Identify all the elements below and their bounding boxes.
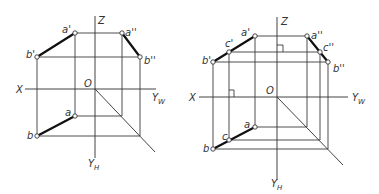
label-a-side: a'': [311, 30, 323, 41]
yh-axis-label: YH: [88, 158, 100, 172]
point-a-front: [253, 34, 257, 38]
point-b-top: [35, 134, 39, 138]
label-b-side: b'': [144, 55, 156, 66]
point-b-side: [326, 60, 330, 64]
label-b-front: b': [26, 49, 35, 60]
orthographic-projection-figure: Z X O YW YH a' b' a'' b'' a b: [0, 0, 379, 194]
label-b-top: b: [27, 130, 33, 141]
point-b-top: [211, 147, 215, 151]
segment-ab-front: [213, 36, 255, 62]
point-b-side: [138, 55, 142, 59]
x-axis-label: X: [15, 84, 24, 95]
point-c-side: [318, 50, 322, 54]
label-a-side: a'': [125, 27, 137, 38]
label-b-top: b: [203, 143, 209, 154]
point-c-front: [227, 50, 231, 54]
label-b-front: b': [202, 55, 211, 66]
z-axis-label: Z: [97, 15, 106, 26]
point-b-front: [35, 55, 39, 59]
label-b-side: b'': [333, 63, 345, 74]
segment-ab-top: [37, 116, 75, 136]
yw-axis-label: YW: [152, 92, 166, 106]
point-a-front: [73, 31, 77, 35]
label-c-top: c: [222, 131, 228, 142]
label-a-front: a': [241, 27, 250, 38]
right-diagram: Z X O YW YH a' c' b' a'' c'' b'' a c b: [188, 16, 366, 192]
point-a-side: [120, 31, 124, 35]
x-axis-label: X: [188, 92, 197, 103]
point-a-top: [253, 125, 257, 129]
point-a-top: [73, 114, 77, 118]
origin-label: O: [84, 78, 92, 89]
point-a-side: [305, 34, 309, 38]
left-diagram: Z X O YW YH a' b' a'' b'' a b: [15, 15, 166, 172]
right-angle-marker: [277, 45, 283, 52]
origin-label: O: [266, 85, 274, 96]
label-c-front: c': [225, 38, 233, 49]
right-angle-marker: [229, 90, 234, 97]
z-axis-label: Z: [280, 16, 289, 27]
diagonal-45-line: [277, 97, 343, 165]
yw-axis-label: YW: [352, 92, 366, 106]
label-c-side: c'': [323, 42, 334, 53]
yh-axis-label: YH: [271, 178, 283, 192]
label-a-front: a': [62, 24, 71, 35]
label-a-top: a: [65, 107, 71, 118]
point-b-front: [211, 60, 215, 64]
segment-ab-top: [213, 127, 255, 149]
diagonal-45-line: [95, 89, 155, 152]
label-a-top: a: [244, 119, 250, 130]
segment-ab-front: [37, 33, 75, 57]
